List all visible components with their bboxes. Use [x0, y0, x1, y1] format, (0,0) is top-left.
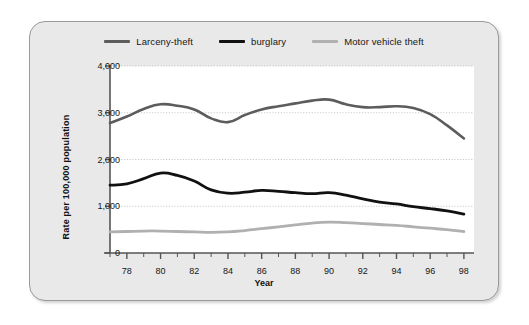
x-axis-tick-label: 92 [358, 266, 368, 276]
y-axis-title-text: Rate per 100,000 population [61, 115, 71, 240]
y-axis-tick-label: 0 [115, 248, 120, 258]
y-axis-title: Rate per 100,000 population [59, 82, 73, 272]
y-axis-tick-label: 2,000 [97, 155, 120, 165]
x-axis-tick-label: 78 [122, 266, 132, 276]
figure-card: Larceny-theft burglary Motor vehicle the… [29, 21, 499, 301]
x-axis-tick-label: 94 [391, 266, 401, 276]
x-axis-tick-label: 88 [290, 266, 300, 276]
y-axis-tick-label: 3,000 [97, 108, 120, 118]
x-axis-tick-label: 90 [324, 266, 334, 276]
x-axis-tick-label: 84 [223, 266, 233, 276]
x-axis-tick-label: 80 [156, 266, 166, 276]
y-axis-tick-label: 1,000 [97, 201, 120, 211]
x-axis-tick-label: 86 [257, 266, 267, 276]
x-axis-tick-label: 96 [425, 266, 435, 276]
chart-screenshot: Larceny-theft burglary Motor vehicle the… [0, 0, 529, 325]
x-axis-tick-label: 82 [189, 266, 199, 276]
y-axis-tick-label: 4,000 [97, 61, 120, 71]
x-axis-tick-label: 98 [459, 266, 469, 276]
x-axis-title: Year [30, 278, 498, 288]
